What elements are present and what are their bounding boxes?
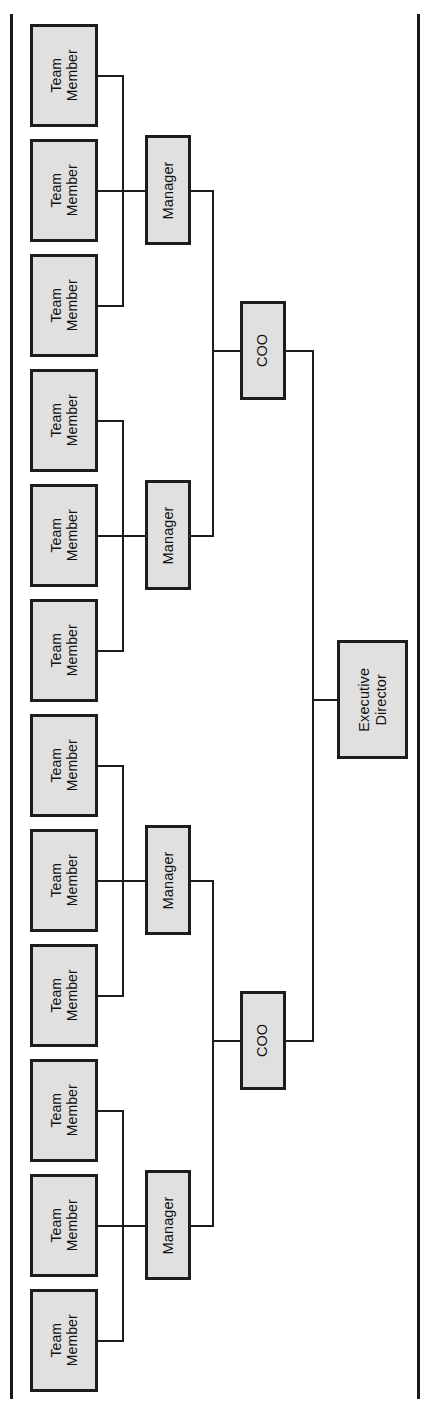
node-label: Team Member — [48, 740, 80, 792]
node-team-member-7[interactable]: Team Member — [30, 714, 98, 817]
connector-coo1-out — [284, 350, 314, 352]
node-label: Team Member — [48, 1315, 80, 1367]
node-label: Executive Director — [356, 668, 390, 732]
connector-tm2-stub — [98, 190, 124, 192]
connector-spine-to-coo1 — [212, 350, 242, 352]
node-coo-2[interactable]: COO — [240, 991, 286, 1090]
connector-spine-to-exec — [312, 699, 339, 701]
node-label: Manager — [160, 161, 177, 219]
connector-spine-exec — [312, 350, 314, 1042]
connector-tm5-stub — [98, 535, 124, 537]
node-coo-1[interactable]: COO — [240, 301, 286, 400]
connector-spine-to-mgr3 — [122, 880, 147, 882]
node-team-member-4[interactable]: Team Member — [30, 369, 98, 472]
node-team-member-12[interactable]: Team Member — [30, 1289, 98, 1392]
node-label: Manager — [160, 851, 177, 909]
connector-coo2-out — [284, 1040, 314, 1042]
node-manager-4[interactable]: Manager — [145, 1170, 191, 1280]
connector-tm3-stub — [98, 305, 124, 307]
connector-spine-to-mgr4 — [122, 1225, 147, 1227]
node-team-member-2[interactable]: Team Member — [30, 139, 98, 242]
connector-tm11-stub — [98, 1225, 124, 1227]
node-team-member-8[interactable]: Team Member — [30, 829, 98, 932]
node-label: Team Member — [48, 1085, 80, 1137]
node-label: COO — [255, 1024, 272, 1057]
node-team-member-1[interactable]: Team Member — [30, 24, 98, 127]
node-team-member-11[interactable]: Team Member — [30, 1174, 98, 1277]
connector-tm7-stub — [98, 765, 124, 767]
node-team-member-6[interactable]: Team Member — [30, 599, 98, 702]
connector-spine-to-mgr1 — [122, 190, 147, 192]
node-manager-1[interactable]: Manager — [145, 135, 191, 245]
node-label: Team Member — [48, 395, 80, 447]
node-manager-3[interactable]: Manager — [145, 825, 191, 935]
connector-tm4-stub — [98, 420, 124, 422]
org-chart-canvas: Team Member Team Member Team Member Team… — [0, 0, 432, 1413]
connector-tm9-stub — [98, 995, 124, 997]
node-label: COO — [255, 334, 272, 367]
node-label: Team Member — [48, 625, 80, 677]
connector-mgr1-out — [189, 190, 214, 192]
connector-tm8-stub — [98, 880, 124, 882]
node-executive-director[interactable]: Executive Director — [337, 640, 408, 759]
page-rule-left — [10, 14, 13, 1399]
node-team-member-5[interactable]: Team Member — [30, 484, 98, 587]
connector-tm6-stub — [98, 650, 124, 652]
node-label: Team Member — [48, 280, 80, 332]
connector-mgr2-out — [189, 535, 214, 537]
node-label: Team Member — [48, 510, 80, 562]
connector-tm10-stub — [98, 1110, 124, 1112]
node-label: Team Member — [48, 970, 80, 1022]
node-label: Manager — [160, 1196, 177, 1254]
node-label: Team Member — [48, 50, 80, 102]
node-team-member-10[interactable]: Team Member — [30, 1059, 98, 1162]
connector-mgr4-out — [189, 1225, 214, 1227]
page-rule-right — [417, 14, 420, 1399]
node-team-member-3[interactable]: Team Member — [30, 254, 98, 357]
node-label: Team Member — [48, 165, 80, 217]
node-label: Team Member — [48, 855, 80, 907]
node-team-member-9[interactable]: Team Member — [30, 944, 98, 1047]
connector-spine-to-mgr2 — [122, 535, 147, 537]
connector-tm12-stub — [98, 1340, 124, 1342]
connector-mgr3-out — [189, 880, 214, 882]
connector-spine-coo2 — [212, 880, 214, 1227]
node-manager-2[interactable]: Manager — [145, 480, 191, 590]
connector-spine-to-coo2 — [212, 1040, 242, 1042]
node-label: Team Member — [48, 1200, 80, 1252]
connector-tm1-stub — [98, 75, 124, 77]
connector-spine-coo1 — [212, 190, 214, 537]
node-label: Manager — [160, 506, 177, 564]
